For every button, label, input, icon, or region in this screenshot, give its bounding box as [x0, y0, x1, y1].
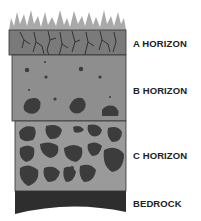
- c-horizon-label: C HORIZON: [133, 150, 187, 161]
- bedrock-layer: [15, 191, 126, 214]
- a-horizon-label: A HORIZON: [133, 38, 187, 49]
- bedrock-label: BEDROCK: [133, 198, 182, 209]
- b-horizon-label: B HORIZON: [133, 85, 187, 96]
- grass-layer: [9, 10, 126, 30]
- a-horizon-layer: [9, 30, 126, 55]
- soil-profile-diagram: [0, 0, 201, 221]
